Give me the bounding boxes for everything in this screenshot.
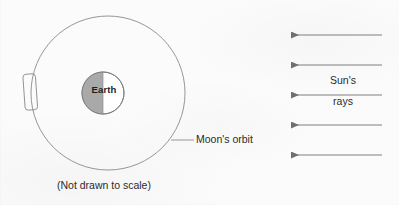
sun-rays-label-line-1: Sun's bbox=[330, 74, 356, 86]
earth-label: Earth bbox=[84, 85, 124, 95]
sun-rays-label-line-2: rays bbox=[305, 96, 381, 107]
not-to-scale-caption: (Not drawn to scale) bbox=[57, 180, 151, 191]
moon-orbit-label: Moon's orbit bbox=[196, 134, 253, 145]
sun-rays-label: Sun's rays bbox=[305, 75, 381, 108]
moon-body bbox=[23, 74, 38, 111]
diagram-canvas: Earth Moon's orbit (Not drawn to scale) … bbox=[0, 0, 399, 205]
